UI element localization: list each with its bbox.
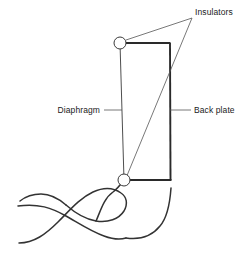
insulator-bottom-circle: [118, 174, 130, 186]
insulators-leader-upper: [126, 18, 192, 40]
back-plate-line: [170, 43, 171, 180]
insulator-diagonal-line: [126, 18, 192, 178]
lead-wires-group: [18, 180, 171, 243]
microphone-capsule-diagram: Insulators Diaphragm Back plate: [0, 0, 246, 257]
wire-strand-c: [20, 194, 66, 205]
wire-strand-to-plate: [126, 188, 171, 239]
back-plate-group: [120, 43, 172, 180]
label-diaphragm: Diaphragm: [58, 105, 100, 115]
label-insulators: Insulators: [195, 7, 233, 17]
diagram-canvas: Insulators Diaphragm Back plate: [0, 0, 246, 257]
label-back-plate: Back plate: [194, 105, 235, 115]
diaphragm-line: [120, 43, 124, 180]
wire-strand-b: [19, 189, 126, 243]
insulator-top-circle: [114, 37, 126, 49]
